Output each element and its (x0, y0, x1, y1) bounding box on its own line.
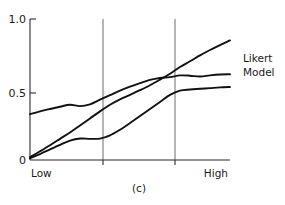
series-likert-model (30, 40, 230, 157)
series-annotation-group: Likert Model (243, 52, 275, 78)
y-tick-label-1-0: 1.0 (9, 13, 27, 26)
figure-caption: (c) (132, 182, 146, 194)
line-chart: 1.0 0.5 0 Low High Likert Model (c) (0, 0, 285, 205)
y-tick-label-0: 0 (19, 154, 26, 167)
data-series-group (30, 40, 230, 158)
reference-lines-group (103, 19, 175, 160)
likert-model-annotation-line2: Model (243, 66, 275, 78)
series-lower-sigmoid-curve (30, 87, 230, 158)
likert-model-annotation-line1: Likert (243, 52, 272, 64)
x-axis-high-label: High (204, 167, 228, 179)
x-axis-low-label: Low (31, 167, 52, 179)
axes-group (30, 19, 230, 165)
figure-container: 1.0 0.5 0 Low High Likert Model (c) (0, 0, 285, 205)
y-tick-label-0-5: 0.5 (9, 87, 27, 100)
